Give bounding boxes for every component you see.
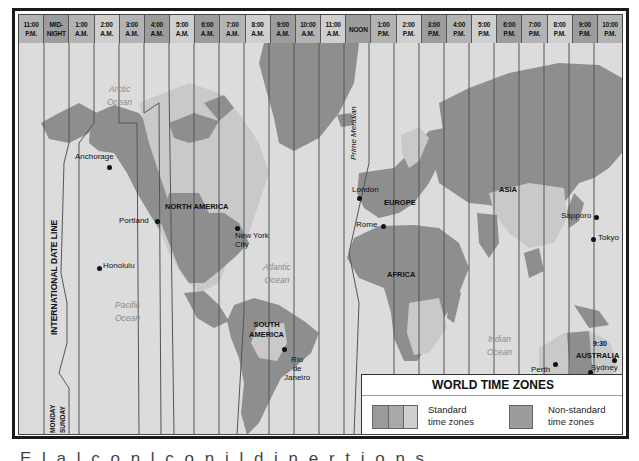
time-zone-period: P.M. (478, 29, 490, 38)
city-london: London (352, 185, 379, 194)
time-zone-period: P.M. (554, 29, 566, 38)
time-zone-period: NIGHT (47, 29, 66, 38)
time-zone-cell: 3:00A.M. (120, 15, 145, 43)
time-zone-cell: 7:00A.M. (220, 15, 245, 43)
sapporo-dot (594, 215, 599, 220)
time-zone-time: 3:00 (126, 20, 138, 29)
time-zone-time: 1:00 (377, 20, 389, 29)
time-zone-time: 10:00 (602, 20, 618, 29)
time-zone-time: 7:00 (528, 20, 540, 29)
time-zone-time: 9:00 (579, 20, 591, 29)
time-zone-cell: 11:00P.M. (19, 15, 44, 43)
rome-dot (381, 224, 386, 229)
time-zone-period: A.M. (327, 29, 340, 38)
pacific-ocean-label: Pacific Ocean (115, 299, 140, 325)
time-zone-time: 9:00 (277, 20, 289, 29)
time-zone-period: A.M. (302, 29, 315, 38)
north-america-label: NORTH AMERICA (165, 202, 228, 211)
city-rio-de-janeiro: Rio de Janeiro (284, 355, 310, 382)
south-america-label: SOUTH AMERICA (249, 320, 284, 340)
time-zone-period: A.M. (201, 29, 214, 38)
legend-title: WORLD TIME ZONES (362, 375, 623, 396)
time-zone-cell: 3:00P.M. (422, 15, 447, 43)
time-zone-cell: 5:00A.M. (170, 15, 195, 43)
time-zone-cell: 7:00P.M. (522, 15, 547, 43)
time-zone-time: 4:00 (453, 20, 465, 29)
time-zone-period: A.M. (100, 29, 113, 38)
time-zone-period: P.M. (579, 29, 591, 38)
time-zone-time: 3:00 (428, 20, 440, 29)
atlantic-ocean-label: Atlantic Ocean (263, 261, 291, 287)
time-zone-time: 2:00 (100, 20, 112, 29)
time-zone-cell: 9:00P.M. (573, 15, 598, 43)
time-zone-period: A.M. (75, 29, 88, 38)
time-zone-time: NOON (349, 25, 368, 34)
portland-dot (155, 219, 160, 224)
rio-dot (282, 347, 287, 352)
time-zone-cell: 11:00A.M. (321, 15, 346, 43)
city-anchorage: Anchorage (75, 152, 114, 161)
nonstandard-swatch (509, 405, 533, 429)
city-honolulu: Honolulu (103, 261, 135, 270)
standard-swatch-mid (388, 405, 403, 429)
standard-swatch-light (403, 405, 418, 429)
city-rome: Rome (356, 220, 377, 229)
time-zone-time: 5:00 (176, 20, 188, 29)
time-zone-period: P.M. (503, 29, 515, 38)
time-zone-period: P.M. (428, 29, 440, 38)
time-zone-cell: 1:00P.M. (371, 15, 396, 43)
time-zone-time: 1:00 (75, 20, 87, 29)
time-zone-time: 11:00 (23, 20, 38, 29)
time-zone-cell: 1:00A.M. (69, 15, 94, 43)
time-zone-cell: 8:00A.M. (246, 15, 271, 43)
time-zone-cell: 5:00P.M. (472, 15, 497, 43)
cut-off-caption: E l a l c o n l c o n i l d i n e r t i … (20, 443, 630, 461)
time-zone-period: A.M. (251, 29, 264, 38)
honolulu-dot (97, 266, 102, 271)
city-portland: Portland (119, 216, 149, 225)
time-zone-period: A.M. (150, 29, 163, 38)
time-zone-time: 2:00 (403, 20, 415, 29)
time-zone-time: 10:00 (300, 20, 316, 29)
time-zone-cell: 10:00A.M. (296, 15, 321, 43)
time-zone-cell: MID-NIGHT (44, 15, 69, 43)
time-zone-period: P.M. (378, 29, 390, 38)
time-zone-time: 6:00 (503, 20, 515, 29)
standard-time-zones-label: Standard time zones (428, 404, 474, 428)
time-zone-time: 11:00 (326, 20, 341, 29)
time-zone-cell: 4:00A.M. (145, 15, 170, 43)
time-zone-time: 7:00 (226, 20, 238, 29)
time-zone-period: P.M. (453, 29, 465, 38)
time-zone-period: A.M. (226, 29, 239, 38)
tokyo-dot (591, 237, 596, 242)
time-zone-header: 11:00P.M.MID-NIGHT1:00A.M.2:00A.M.3:00A.… (19, 15, 622, 44)
time-zone-time: 6:00 (201, 20, 213, 29)
time-zone-period: A.M. (176, 29, 189, 38)
time-zone-cell: 6:00A.M. (195, 15, 220, 43)
time-zone-cell: 9:00A.M. (271, 15, 296, 43)
time-zone-cell: 4:00P.M. (447, 15, 472, 43)
time-zone-time: MID- (50, 20, 63, 29)
monday-label: MONDAY (49, 405, 56, 433)
time-zone-period: A.M. (276, 29, 289, 38)
international-date-line-label: INTERNATIONAL DATE LINE (49, 220, 59, 335)
world-time-zones-map: 11:00P.M.MID-NIGHT1:00A.M.2:00A.M.3:00A.… (18, 14, 623, 435)
australia-offset-label: 9:30 (593, 340, 607, 347)
time-zone-time: 4:00 (151, 20, 163, 29)
city-tokyo: Tokyo (598, 233, 619, 242)
perth-dot (553, 362, 558, 367)
london-dot (357, 196, 362, 201)
city-perth: Perth (531, 365, 550, 374)
time-zone-cell: 2:00P.M. (397, 15, 422, 43)
time-zone-cell: 6:00P.M. (497, 15, 522, 43)
city-sydney: Sydney (591, 363, 618, 372)
time-zone-period: P.M. (25, 29, 37, 38)
standard-swatch-dark (372, 405, 388, 429)
legend: WORLD TIME ZONES Standard time zones Non… (361, 374, 623, 435)
time-zone-cell: 10:00P.M. (598, 15, 622, 43)
time-zone-period: P.M. (529, 29, 541, 38)
nonstandard-time-zones-label: Non-standard time zones (548, 404, 606, 428)
africa-label: AFRICA (387, 270, 415, 279)
time-zone-cell: 8:00P.M. (548, 15, 573, 43)
time-zone-period: P.M. (604, 29, 616, 38)
